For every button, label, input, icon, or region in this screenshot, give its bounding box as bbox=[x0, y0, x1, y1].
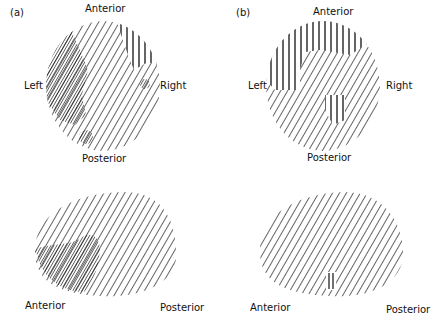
panel-a-top-anterior-label: Anterior bbox=[85, 3, 125, 15]
panel-a-lateral-posterior-label: Posterior bbox=[160, 302, 204, 314]
panel-b-top-left-label: Left bbox=[248, 80, 267, 92]
panel-b-lateral-view bbox=[260, 192, 403, 296]
panel-b-top-view bbox=[266, 20, 380, 151]
panel-a-top-posterior-label: Posterior bbox=[82, 153, 126, 165]
panel-a-top-right-label: Right bbox=[160, 80, 186, 92]
panel-b-lateral-anterior-label: Anterior bbox=[250, 302, 290, 314]
panel-a-tag: (a) bbox=[10, 7, 24, 19]
panel-b-top-right-label: Right bbox=[386, 80, 412, 92]
panel-a-lateral-view bbox=[35, 192, 176, 296]
panel-b-lateral-posterior-label: Posterior bbox=[386, 304, 430, 316]
panel-a-top-view bbox=[46, 20, 160, 151]
figure-canvas bbox=[0, 0, 433, 324]
panel-a-top-left-label: Left bbox=[24, 80, 43, 92]
panel-b-tag: (b) bbox=[236, 7, 250, 19]
panel-a-lateral-anterior-label: Anterior bbox=[25, 300, 65, 312]
panel-b-top-posterior-label: Posterior bbox=[307, 152, 351, 164]
panel-b-top-anterior-label: Anterior bbox=[313, 6, 353, 18]
